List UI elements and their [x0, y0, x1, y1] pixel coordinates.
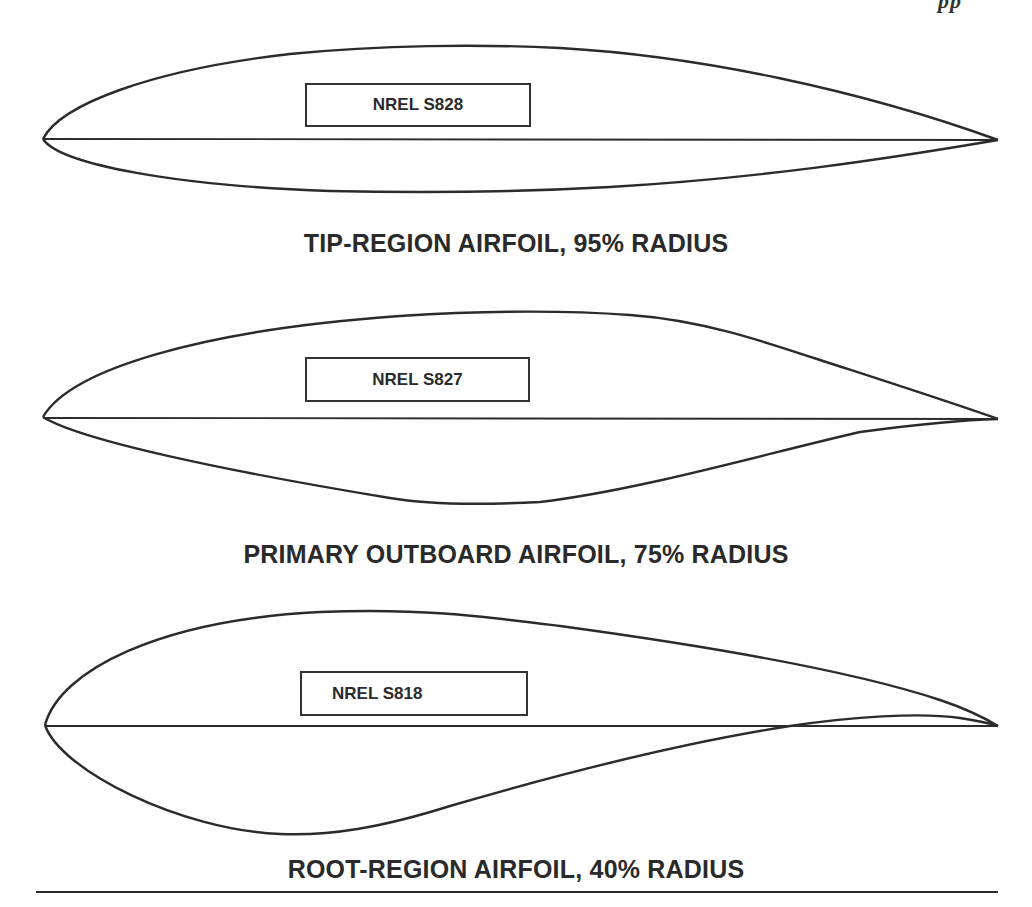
airfoil-s827-designation: NREL S827 [372, 370, 462, 390]
airfoil-s828-caption: TIP-REGION AIRFOIL, 95% RADIUS [0, 229, 1032, 258]
airfoil-s828-lower-surface [43, 139, 998, 192]
airfoil-s827-shape [43, 312, 998, 504]
airfoil-s827-lower-surface [43, 417, 998, 504]
airfoil-figure [0, 0, 1032, 907]
airfoil-s828-chord-line [43, 139, 998, 140]
airfoil-s818-lower-surface [45, 715, 998, 834]
airfoil-s818-designation: NREL S818 [332, 684, 422, 704]
airfoil-s818-caption: ROOT-REGION AIRFOIL, 40% RADIUS [0, 855, 1032, 884]
airfoil-s827-label-box: NREL S827 [305, 357, 530, 402]
airfoil-s827-caption: PRIMARY OUTBOARD AIRFOIL, 75% RADIUS [0, 540, 1032, 569]
airfoil-s827-chord-line [43, 418, 998, 419]
bottom-rule-divider [36, 891, 998, 893]
airfoil-s818-shape [45, 611, 998, 834]
airfoil-s828-label-box: NREL S828 [305, 83, 531, 127]
airfoil-s828-designation: NREL S828 [373, 95, 463, 115]
airfoil-s818-label-box: NREL S818 [300, 671, 528, 716]
